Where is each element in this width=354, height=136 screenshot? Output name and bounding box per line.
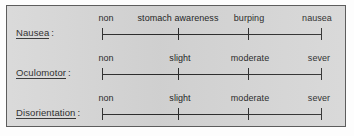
scale-axis-group: non stomach awareness burping nausea (95, 9, 335, 47)
figure-canvas: Nausea: non stomach awareness burping na… (0, 0, 354, 136)
scale-tick (321, 28, 322, 40)
scale-tick (321, 108, 322, 120)
scale-anchor-label: nausea (302, 13, 332, 23)
scale-anchor-label: non (98, 93, 113, 103)
scale-anchor-label: slight (169, 93, 190, 103)
scale-anchor-label: non (98, 53, 113, 63)
rating-scale-row: Oculomotor: non slight moderate sever (7, 49, 347, 87)
scale-tick (248, 68, 249, 80)
scale-tick (248, 108, 249, 120)
scale-anchor-label: burping (234, 13, 264, 23)
scale-axis-group: non slight moderate sever (95, 49, 335, 87)
figure-frame: Nausea: non stomach awareness burping na… (6, 5, 346, 127)
scale-tick (102, 68, 103, 80)
scale-tick (178, 68, 179, 80)
scale-tick (248, 28, 249, 40)
scale-criterion-colon: : (76, 107, 81, 118)
scale-tick (102, 28, 103, 40)
scale-anchor-label: stomach awareness (138, 13, 219, 23)
scale-tick (102, 108, 103, 120)
scale-anchor-label: non (98, 13, 113, 23)
scale-anchor-label: slight (169, 53, 190, 63)
scale-criterion-colon: : (49, 27, 54, 38)
scale-criterion-colon: : (66, 67, 71, 78)
scale-anchor-label: moderate (231, 53, 269, 63)
scale-tick (178, 108, 179, 120)
scale-criterion-label: Disorientation: (16, 107, 80, 118)
rating-scale-row: Nausea: non stomach awareness burping na… (7, 9, 347, 47)
scale-anchor-label: moderate (231, 93, 269, 103)
scale-criterion-label: Oculomotor: (16, 67, 71, 78)
scale-tick (178, 28, 179, 40)
scale-criterion-name: Nausea (16, 27, 49, 39)
scale-criterion-label: Nausea: (16, 27, 54, 38)
scale-criterion-name: Disorientation (16, 107, 76, 119)
scale-axis-line (102, 34, 321, 35)
scale-tick (321, 68, 322, 80)
scale-axis-group: non slight moderate sever (95, 89, 335, 127)
rating-scale-row: Disorientation: non slight moderate seve… (7, 89, 347, 127)
scale-axis-line (102, 74, 321, 75)
scale-anchor-label: sever (308, 53, 330, 63)
scale-axis-line (102, 114, 321, 115)
scale-criterion-name: Oculomotor (16, 67, 66, 79)
scale-anchor-label: sever (308, 93, 330, 103)
